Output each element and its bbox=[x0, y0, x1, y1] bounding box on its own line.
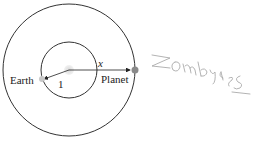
earth-radius-arrow bbox=[44, 70, 69, 79]
orbit-diagram bbox=[0, 0, 272, 143]
earth-radius-label: 1 bbox=[58, 79, 64, 90]
planet-icon bbox=[132, 67, 139, 74]
planet-label: Planet bbox=[101, 74, 129, 85]
earth-label: Earth bbox=[10, 75, 34, 86]
earth-icon bbox=[39, 76, 45, 82]
planet-radius-label: x bbox=[98, 58, 103, 69]
handwriting-zombies bbox=[152, 55, 250, 94]
